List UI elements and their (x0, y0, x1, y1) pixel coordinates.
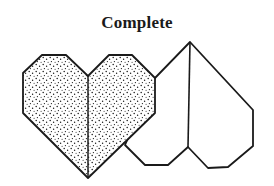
front-heart-outline (23, 55, 155, 178)
heart-fold-diagram (0, 0, 274, 186)
front-heart (23, 55, 155, 178)
